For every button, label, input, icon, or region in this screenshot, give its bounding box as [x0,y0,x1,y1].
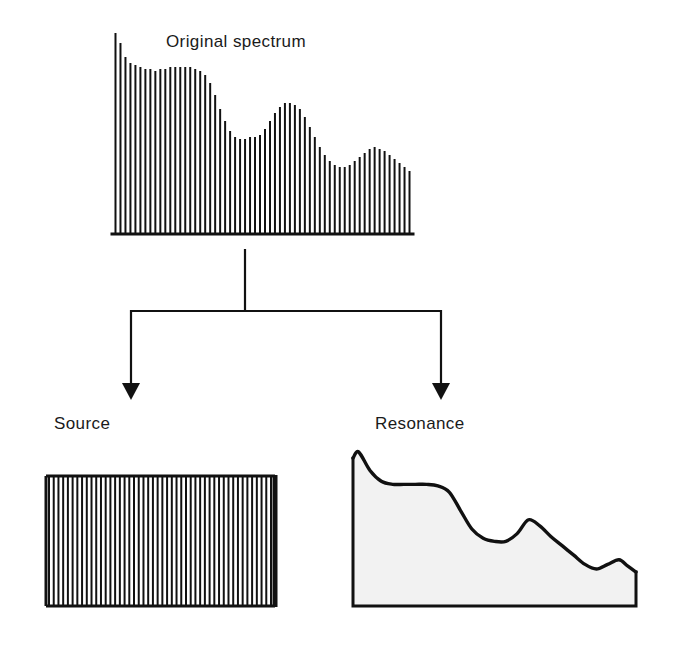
original-spectrum-lines [115,33,409,234]
resonance-chart [353,452,636,606]
source-label: Source [54,414,110,433]
source-spectrum-lines [49,476,271,606]
spectrum-source-resonance-figure: Original spectrum Source Resonance [0,0,680,654]
source-box-frame [46,476,275,606]
arrow-down-icon-source [122,383,140,400]
source-chart [46,475,275,607]
connector-branch-lines [131,250,441,386]
resonance-area-fill [353,452,636,606]
resonance-label: Resonance [375,414,465,433]
original-spectrum-chart: Original spectrum [112,32,413,234]
original-spectrum-title: Original spectrum [166,32,306,51]
connector-tree [122,250,450,400]
figure-root: Original spectrum Source Resonance [0,0,680,654]
arrow-down-icon-resonance [432,383,450,400]
